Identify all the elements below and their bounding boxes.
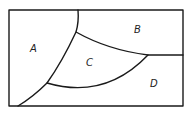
diagram-canvas: A B C D — [0, 0, 190, 116]
boundary-a — [18, 10, 78, 106]
region-diagram: A B C D — [0, 0, 190, 116]
region-label-d: D — [150, 78, 158, 89]
region-label-c: C — [86, 57, 93, 68]
region-label-a: A — [29, 43, 37, 54]
boundary-b-c — [76, 32, 183, 55]
outer-rectangle — [9, 10, 183, 106]
region-label-b: B — [134, 24, 141, 35]
